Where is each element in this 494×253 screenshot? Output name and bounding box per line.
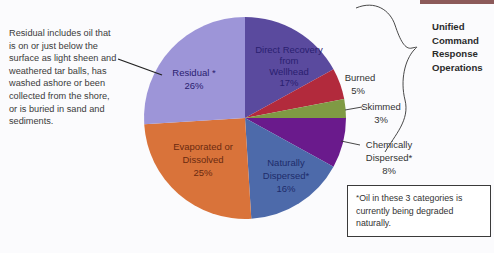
residual-leader-line — [118, 59, 162, 75]
label-direct-1: Direct Recovery — [255, 44, 323, 55]
label-nat-2: Dispersed* — [263, 170, 310, 181]
label-chem-2: Dispersed* — [366, 152, 413, 163]
label-residual: Residual * — [172, 67, 216, 78]
label-chem-1: Chemically — [366, 139, 413, 150]
label-skimmed: Skimmed — [361, 101, 401, 112]
label-evap-pct: 25% — [193, 167, 213, 178]
label-direct-pct: 17% — [279, 77, 299, 88]
label-burned: Burned — [345, 72, 376, 83]
label-nat-1: Naturally — [267, 157, 305, 168]
degraded-note-box: *Oil in these 3 categories is currently … — [347, 185, 491, 237]
label-direct-2: from — [280, 55, 299, 66]
label-residual-pct: 26% — [184, 80, 204, 91]
label-evap-2: Dissolved — [182, 154, 223, 165]
label-skimmed-pct: 3% — [374, 114, 388, 125]
chemically-leader-line — [341, 141, 360, 145]
label-nat-pct: 16% — [276, 183, 296, 194]
skimmed-leader-line — [345, 107, 362, 110]
label-direct-3: Wellhead — [269, 66, 308, 77]
label-evap-1: Evaporated or — [173, 141, 233, 152]
label-chem-pct: 8% — [382, 165, 396, 176]
label-burned-pct: 5% — [351, 85, 365, 96]
unified-command-label: Unified Command Response Operations — [432, 20, 483, 74]
note-text: Oil in these 3 categories is currently b… — [356, 193, 462, 228]
